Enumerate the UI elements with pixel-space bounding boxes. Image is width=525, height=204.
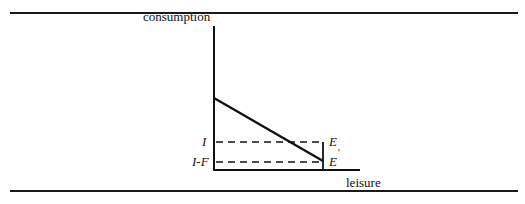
point-e-prime-mark: ' (338, 147, 340, 158)
income-label: I (201, 134, 207, 149)
budget-line (214, 98, 323, 161)
point-e-prime-label: E (328, 154, 337, 169)
labor-leisure-diagram: consumption leisure I I-F E E ' (0, 0, 525, 204)
y-axis-label: consumption (143, 9, 211, 24)
point-e-label: E (328, 134, 337, 149)
x-axis-label: leisure (346, 175, 381, 190)
income-minus-fee-label: I-F (191, 154, 210, 169)
